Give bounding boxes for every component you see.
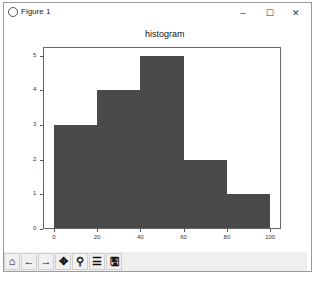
x-tick-label: 100 (260, 234, 280, 240)
home-button[interactable]: ⌂ (4, 253, 20, 270)
save-button[interactable]: 🖫 (106, 253, 122, 270)
x-tick-label: 0 (44, 234, 64, 240)
x-tick-label: 20 (87, 234, 107, 240)
x-tick-label: 60 (174, 234, 194, 240)
x-tick-label: 40 (130, 234, 150, 240)
close-button[interactable]: ✕ (285, 5, 307, 21)
configure-subplots-button[interactable]: ☰ (89, 253, 105, 270)
title-bar[interactable]: Figure 1 – ☐ ✕ (4, 3, 311, 23)
x-tick-mark (54, 229, 55, 232)
navigation-toolbar: ⌂←→✥⚲☰🖫 (4, 253, 122, 271)
histogram-bar (140, 56, 183, 228)
x-tick-mark (140, 229, 141, 232)
minimize-button[interactable]: – (232, 5, 254, 21)
y-tick-label: 3 (33, 121, 36, 127)
zoom-button[interactable]: ⚲ (72, 253, 88, 270)
y-tick-mark (40, 90, 43, 91)
y-tick-mark (40, 125, 43, 126)
back-icon: ← (24, 255, 35, 267)
chart-title: histogram (145, 29, 185, 39)
histogram-bar (97, 90, 140, 228)
forward-icon: → (41, 255, 52, 267)
x-tick-label: 80 (217, 234, 237, 240)
app-icon (8, 7, 18, 17)
histogram-bar (184, 160, 227, 228)
x-tick-mark (97, 229, 98, 232)
y-tick-mark (40, 56, 43, 57)
y-tick-label: 0 (33, 225, 36, 231)
maximize-button[interactable]: ☐ (259, 5, 281, 21)
plot-axes[interactable] (43, 47, 281, 229)
histogram-bar (54, 125, 97, 228)
y-tick-label: 5 (33, 52, 36, 58)
zoom-icon: ⚲ (76, 255, 84, 267)
y-tick-label: 1 (33, 190, 36, 196)
histogram-bar (227, 194, 270, 228)
y-tick-mark (40, 194, 43, 195)
back-button[interactable]: ← (21, 253, 37, 270)
x-tick-mark (227, 229, 228, 232)
y-tick-mark (40, 160, 43, 161)
y-tick-label: 4 (33, 86, 36, 92)
save-icon: 🖫 (110, 255, 119, 267)
window-title: Figure 1 (21, 7, 50, 16)
y-tick-label: 2 (33, 156, 36, 162)
pan-icon: ✥ (59, 255, 68, 267)
configure-subplots-icon: ☰ (92, 255, 102, 267)
y-tick-mark (40, 229, 43, 230)
x-tick-mark (270, 229, 271, 232)
pan-button[interactable]: ✥ (55, 253, 71, 270)
x-tick-mark (184, 229, 185, 232)
forward-button[interactable]: → (38, 253, 54, 270)
home-icon: ⌂ (9, 255, 16, 267)
